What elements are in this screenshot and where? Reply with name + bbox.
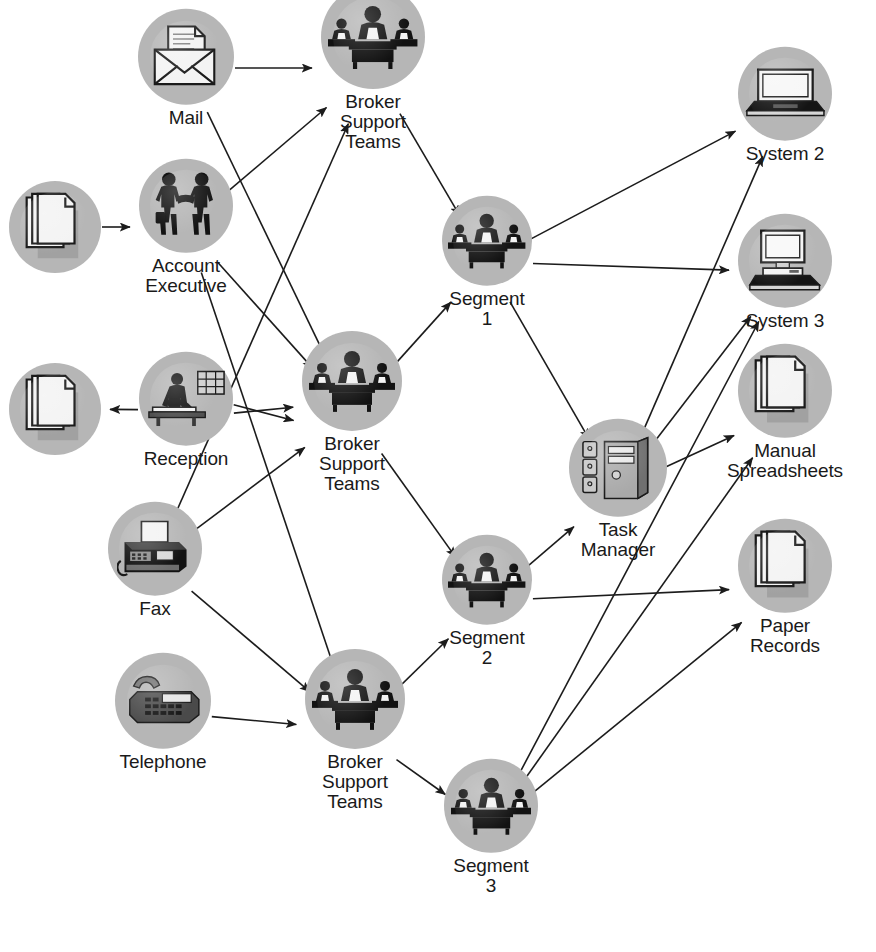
node-bubble-account_exec (139, 159, 233, 253)
node-docs_out[interactable] (9, 363, 101, 455)
laptop-icon (745, 67, 826, 120)
meeting-team-icon (448, 552, 525, 608)
node-spreadsheets[interactable]: Manual Spreadsheets (727, 344, 843, 481)
node-account_exec[interactable]: Account Executive (139, 159, 233, 296)
node-label-system3: System 3 (746, 311, 824, 331)
process-flow-diagram: Mail Account Executive (0, 0, 876, 952)
reception-desk-icon (147, 369, 226, 427)
node-label-telephone: Telephone (120, 752, 207, 772)
node-fax[interactable]: Fax (108, 502, 202, 619)
handshake-icon (150, 171, 221, 241)
meeting-team-icon (451, 777, 532, 835)
node-label-spreadsheets: Manual Spreadsheets (727, 441, 843, 481)
node-layer: Mail Account Executive (0, 0, 876, 952)
node-telephone[interactable]: Telephone (115, 653, 211, 772)
node-label-segment1: Segment 1 (449, 289, 524, 329)
node-label-task_manager: Task Manager (581, 520, 655, 560)
node-bst_mid[interactable]: Broker Support Teams (302, 331, 402, 493)
node-label-bst_top: Broker Support Teams (340, 92, 406, 151)
documents-icon (23, 374, 87, 444)
documents-icon (752, 530, 818, 601)
node-bubble-segment2 (442, 535, 532, 625)
node-bubble-docs_out (9, 363, 101, 455)
node-label-reception: Reception (144, 449, 229, 469)
node-bubble-reception (139, 352, 233, 446)
node-label-system2: System 2 (746, 144, 824, 164)
node-bubble-bst_top (321, 0, 425, 89)
node-bubble-telephone (115, 653, 211, 749)
node-reception[interactable]: Reception (139, 352, 233, 469)
node-bubble-fax (108, 502, 202, 596)
meeting-team-icon (309, 350, 395, 412)
node-bubble-bst_bottom (305, 649, 405, 749)
node-docs_in[interactable] (9, 181, 101, 273)
node-label-account_exec: Account Executive (145, 256, 226, 296)
meeting-team-icon (448, 213, 525, 269)
node-bubble-system3 (738, 214, 832, 308)
node-bubble-paper_records (738, 519, 832, 613)
node-segment2[interactable]: Segment 2 (442, 535, 532, 668)
node-label-paper_records: Paper Records (750, 616, 820, 656)
node-bubble-segment3 (444, 759, 538, 853)
node-label-segment3: Segment 3 (453, 856, 528, 896)
node-label-mail: Mail (169, 108, 203, 128)
node-segment3[interactable]: Segment 3 (444, 759, 538, 896)
documents-icon (752, 355, 818, 426)
node-bubble-bst_mid (302, 331, 402, 431)
node-paper_records[interactable]: Paper Records (738, 519, 832, 656)
node-label-bst_mid: Broker Support Teams (319, 434, 385, 493)
server-tower-icon (581, 435, 655, 500)
meeting-team-icon (312, 668, 398, 730)
node-label-segment2: Segment 2 (449, 628, 524, 668)
node-label-bst_bottom: Broker Support Teams (322, 752, 388, 811)
meeting-team-icon (328, 5, 417, 69)
fax-machine-icon (117, 519, 192, 577)
node-bubble-mail (138, 9, 234, 105)
node-system3[interactable]: System 3 (738, 214, 832, 331)
node-bst_bottom[interactable]: Broker Support Teams (305, 649, 405, 811)
node-system2[interactable]: System 2 (738, 47, 832, 164)
node-task_manager[interactable]: Task Manager (569, 419, 667, 560)
node-bubble-segment1 (442, 196, 532, 286)
node-bubble-docs_in (9, 181, 101, 273)
node-bubble-task_manager (569, 419, 667, 517)
mail-envelope-icon (149, 25, 224, 88)
node-segment1[interactable]: Segment 1 (442, 196, 532, 329)
desktop-pc-icon (748, 229, 821, 293)
telephone-icon (124, 673, 203, 729)
node-bubble-spreadsheets (738, 344, 832, 438)
node-label-fax: Fax (139, 599, 170, 619)
node-mail[interactable]: Mail (138, 9, 234, 128)
node-bst_top[interactable]: Broker Support Teams (321, 0, 425, 151)
node-bubble-system2 (738, 47, 832, 141)
documents-icon (23, 192, 87, 262)
